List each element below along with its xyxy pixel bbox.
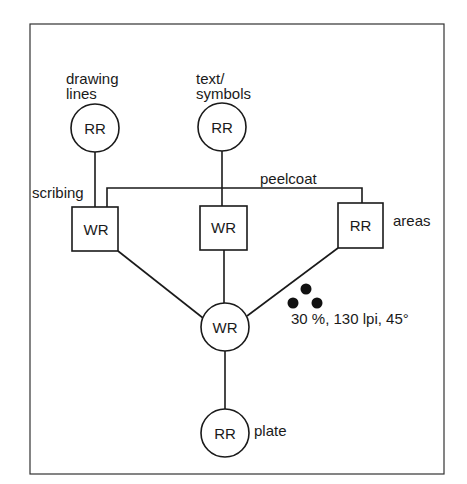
node-middle-box: WR (200, 206, 247, 250)
node-text: RR (350, 217, 372, 234)
node-drawing-lines: RR drawing lines (66, 70, 119, 152)
caption-symbols: symbols (196, 85, 251, 102)
process-diagram: RR drawing lines RR text/ symbols peelco… (0, 0, 467, 484)
node-text: WR (84, 221, 109, 238)
node-plate: RR plate (201, 409, 287, 457)
peelcoat-label: peelcoat (260, 170, 318, 187)
node-text: RR (214, 425, 236, 442)
line-scribing-to-combined (118, 251, 203, 318)
areas-label: areas (393, 212, 431, 229)
caption-lines: lines (66, 85, 97, 102)
node-text: WR (211, 219, 236, 236)
node-text: RR (211, 119, 233, 136)
screen-annotation: 30 %, 130 lpi, 45° (291, 310, 409, 327)
plate-label: plate (254, 422, 287, 439)
peelcoat-connector (107, 188, 362, 207)
node-combined: WR (201, 303, 249, 351)
connector-lines (95, 151, 362, 409)
node-areas-box: RR areas (338, 203, 431, 248)
halftone-dots-icon (288, 284, 323, 309)
node-scribing-box: WR (72, 207, 118, 251)
node-text: RR (84, 120, 106, 137)
node-text-symbols: RR text/ symbols (196, 70, 251, 151)
scribing-label: scribing (32, 184, 84, 201)
node-text: WR (213, 319, 238, 336)
